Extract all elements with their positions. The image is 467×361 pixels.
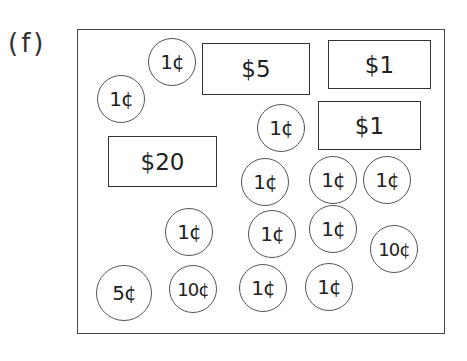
bill: $1 bbox=[328, 40, 431, 89]
coin: 10¢ bbox=[169, 265, 217, 313]
coin: 1¢ bbox=[97, 75, 145, 123]
coin: 5¢ bbox=[96, 265, 152, 321]
coin: 1¢ bbox=[363, 156, 411, 204]
problem-label: (f) bbox=[8, 28, 46, 58]
coin: 1¢ bbox=[248, 210, 296, 258]
bill: $1 bbox=[318, 101, 421, 150]
coin: 1¢ bbox=[239, 264, 287, 312]
coin: 1¢ bbox=[309, 205, 357, 253]
coin: 1¢ bbox=[309, 156, 357, 204]
coin: 10¢ bbox=[370, 225, 418, 273]
coin: 1¢ bbox=[148, 38, 196, 86]
coin: 1¢ bbox=[165, 208, 213, 256]
bill: $5 bbox=[202, 43, 310, 95]
coin: 1¢ bbox=[241, 158, 289, 206]
bill: $20 bbox=[108, 136, 217, 187]
coin: 1¢ bbox=[305, 263, 353, 311]
coin: 1¢ bbox=[257, 104, 305, 152]
